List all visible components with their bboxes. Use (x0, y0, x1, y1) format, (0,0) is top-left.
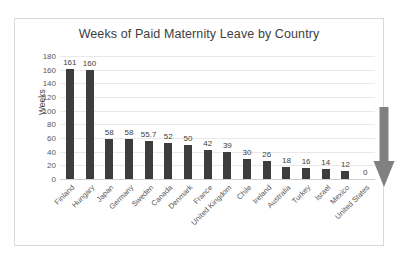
bar-value-label: 58 (105, 128, 114, 137)
bar-group[interactable]: 55.7Sweden (139, 56, 159, 179)
bar-value-label: 26 (262, 150, 271, 159)
bar[interactable] (243, 159, 251, 180)
bar-group[interactable]: 39United Kingdom (218, 56, 238, 179)
bar-value-label: 39 (223, 141, 232, 150)
bar-value-label: 160 (83, 59, 96, 68)
plot-area: 180160140120100806040200161Finland160Hun… (60, 56, 375, 179)
bar[interactable] (125, 139, 133, 179)
bar[interactable] (322, 169, 330, 179)
bar-value-label: 0 (363, 168, 367, 177)
bar-group[interactable]: 16Turkey (296, 56, 316, 179)
bar-value-label: 14 (321, 158, 330, 167)
bar[interactable] (164, 143, 172, 179)
bar[interactable] (105, 139, 113, 179)
bar-group[interactable]: 18Australia (277, 56, 297, 179)
bar-group[interactable]: 58Germany (119, 56, 139, 179)
bar-group[interactable]: 30Chile (237, 56, 257, 179)
bar-group[interactable]: 14Israel (316, 56, 336, 179)
y-axis-tick-label: 20 (32, 161, 56, 170)
y-axis-tick-label: 0 (32, 175, 56, 184)
bar[interactable] (263, 161, 271, 179)
bar[interactable] (302, 168, 310, 179)
bar-value-label: 55.7 (141, 130, 157, 139)
y-axis-tick-label: 60 (32, 134, 56, 143)
bar-value-label: 50 (184, 134, 193, 143)
bar-value-label: 58 (124, 128, 133, 137)
bar-value-label: 161 (63, 58, 76, 67)
y-axis-tick-label: 120 (32, 93, 56, 102)
bar[interactable] (66, 69, 74, 179)
bar[interactable] (223, 152, 231, 179)
down-arrow-annotation-icon (373, 107, 395, 189)
bar-group[interactable]: 12Mexico (336, 56, 356, 179)
bar-group[interactable]: 161Finland (60, 56, 80, 179)
bar-group[interactable]: 58Japan (99, 56, 119, 179)
bar-group[interactable]: 160Hungary (80, 56, 100, 179)
bar-group[interactable]: 52Canada (158, 56, 178, 179)
bar-value-label: 42 (203, 139, 212, 148)
bar-value-label: 52 (164, 132, 173, 141)
bar[interactable] (184, 145, 192, 179)
bar-group[interactable]: 26Ireland (257, 56, 277, 179)
bar-group[interactable]: 0United States (355, 56, 375, 179)
bar-group[interactable]: 42France (198, 56, 218, 179)
bar-value-label: 18 (282, 156, 291, 165)
y-axis-tick-label: 40 (32, 147, 56, 156)
y-axis-tick-label: 180 (32, 52, 56, 61)
chart-title: Weeks of Paid Maternity Leave by Country (15, 27, 383, 41)
bar-group[interactable]: 50Denmark (178, 56, 198, 179)
bar[interactable] (341, 171, 349, 179)
bar-value-label: 12 (341, 160, 350, 169)
bar-value-label: 16 (302, 157, 311, 166)
bar[interactable] (145, 141, 153, 179)
bar[interactable] (86, 70, 94, 179)
bar[interactable] (204, 150, 212, 179)
bar[interactable] (282, 167, 290, 179)
gridline (60, 179, 375, 180)
chart-frame: Weeks of Paid Maternity Leave by Country… (14, 18, 384, 246)
bar-value-label: 30 (243, 148, 252, 157)
x-axis-category-label: Turkey (290, 183, 312, 205)
y-axis-tick-label: 80 (32, 120, 56, 129)
y-axis-tick-label: 160 (32, 65, 56, 74)
y-axis-tick-label: 100 (32, 106, 56, 115)
y-axis-tick-label: 140 (32, 79, 56, 88)
